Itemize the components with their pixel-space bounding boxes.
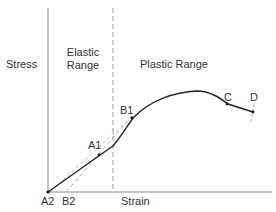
point-a2 <box>46 190 49 193</box>
point-a1 <box>98 154 101 157</box>
point-a1-label: A1 <box>88 139 101 151</box>
point-b1 <box>131 117 134 120</box>
y-axis-label: Stress <box>6 58 37 70</box>
point-b2-label: B2 <box>62 195 75 207</box>
plastic-range-label: Plastic Range <box>140 58 208 70</box>
stress-strain-diagram <box>0 0 276 212</box>
point-d <box>252 111 255 114</box>
unloading-line-a <box>50 122 126 192</box>
point-b1-label: B1 <box>120 104 133 116</box>
elastic-range-label-line1: Elastic <box>58 46 108 58</box>
point-c <box>226 103 229 106</box>
point-c-label: C <box>224 91 232 103</box>
point-a2-label: A2 <box>41 195 54 207</box>
point-d-label: D <box>250 91 258 103</box>
stress-strain-curve <box>48 91 253 192</box>
x-axis-label: Strain <box>121 195 150 207</box>
elastic-range-label-line2: Range <box>58 59 108 71</box>
